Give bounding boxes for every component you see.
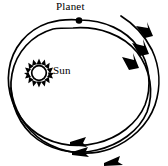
- orbit-paths-group: [8, 16, 158, 153]
- orbit-drawing-canvas: [0, 0, 168, 166]
- sun-icon: [24, 59, 54, 88]
- arrow-bottom-lower-icon: [104, 156, 123, 166]
- sun-label: Sun: [53, 64, 71, 76]
- arrow-right-lower-icon: [122, 53, 139, 70]
- sun-core: [32, 66, 47, 81]
- orbit-arc-2: [11, 28, 151, 153]
- orbit-diagram: Planet Sun: [0, 0, 168, 166]
- planet-marker: [76, 17, 83, 24]
- planet-label: Planet: [56, 0, 85, 12]
- orbit-arc-1: [8, 20, 149, 146]
